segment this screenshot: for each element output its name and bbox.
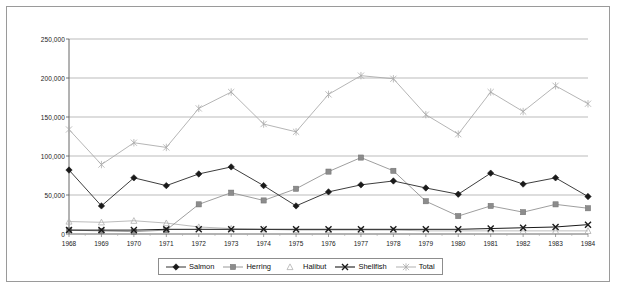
- x-axis-tick-label: 1971: [159, 240, 173, 247]
- legend-item-shellfish[interactable]: Shellfish: [335, 262, 386, 272]
- data-point-total-1975: [293, 128, 299, 135]
- x-axis-tick-label: 1973: [224, 240, 238, 247]
- legend-marker-square-icon: [223, 262, 243, 272]
- x-axis-tick-label: 1979: [419, 240, 433, 247]
- legend-item-salmon[interactable]: Salmon: [166, 262, 214, 272]
- x-axis-tick-label: 1974: [256, 240, 270, 247]
- data-point-herring-1981: [488, 203, 493, 208]
- x-axis-tick-label: 1975: [289, 240, 303, 247]
- data-point-total-1980: [455, 130, 461, 137]
- x-axis-tick-label: 1980: [451, 240, 465, 247]
- data-point-herring-1983: [553, 202, 558, 207]
- data-point-salmon-1981: [487, 170, 493, 176]
- legend-marker-triangle-icon: [280, 262, 300, 272]
- x-axis-tick-label: 1982: [516, 240, 530, 247]
- legend-item-halibut[interactable]: Halibut: [280, 262, 326, 272]
- data-point-salmon-1973: [228, 164, 234, 170]
- data-point-total-1972: [196, 105, 202, 112]
- data-point-herring-1973: [229, 190, 234, 195]
- data-point-total-1982: [520, 108, 526, 115]
- legend-item-herring[interactable]: Herring: [223, 262, 271, 272]
- y-axis-tick-label: 150,000: [41, 114, 65, 121]
- data-point-salmon-1976: [325, 189, 331, 195]
- data-point-herring-1972: [196, 202, 201, 207]
- chart-svg: [69, 39, 588, 234]
- y-axis-tick-label: 250,000: [41, 36, 65, 43]
- data-point-salmon-1980: [455, 191, 461, 197]
- chart-legend: SalmonHerringHalibutShellfishTotal: [158, 258, 443, 275]
- legend-symbol: [173, 263, 179, 269]
- data-point-herring-1975: [293, 186, 298, 191]
- data-point-herring-1974: [261, 198, 266, 203]
- x-axis-label-group: 1968196919701971197219731974197519761977…: [69, 240, 588, 252]
- data-point-salmon-1972: [196, 171, 202, 177]
- data-point-salmon-1974: [260, 182, 266, 188]
- series-total: [66, 72, 591, 168]
- x-axis-tick-label: 1978: [386, 240, 400, 247]
- data-point-herring-1984: [585, 206, 590, 211]
- data-point-salmon-1971: [163, 182, 169, 188]
- data-point-herring-1976: [326, 169, 331, 174]
- y-axis-label-group: 250,000200,000150,000100,00050,0000: [13, 39, 65, 234]
- legend-item-total[interactable]: Total: [396, 262, 435, 272]
- y-axis-tick-label: 0: [61, 231, 65, 238]
- legend-label: Shellfish: [358, 262, 386, 271]
- data-point-salmon-1979: [423, 185, 429, 191]
- data-point-total-1974: [261, 120, 267, 127]
- x-axis-tick-label: 1984: [581, 240, 595, 247]
- data-point-salmon-1984: [585, 193, 591, 199]
- x-axis-tick-label: 1977: [354, 240, 368, 247]
- data-point-salmon-1982: [520, 181, 526, 187]
- legend-label: Halibut: [303, 262, 326, 271]
- x-axis-tick-label: 1983: [548, 240, 562, 247]
- plot-area: [69, 39, 588, 234]
- y-axis-tick-label: 200,000: [41, 75, 65, 82]
- data-point-salmon-1978: [390, 178, 396, 184]
- chart-frame: 250,000200,000150,000100,00050,0000 1968…: [6, 6, 610, 282]
- data-point-total-1973: [228, 88, 234, 95]
- data-point-total-1979: [423, 111, 429, 118]
- series-line-total: [69, 76, 588, 165]
- x-axis-tick-label: 1972: [192, 240, 206, 247]
- data-point-herring-1982: [521, 210, 526, 215]
- data-point-total-1969: [98, 161, 104, 168]
- x-axis-tick-label: 1970: [127, 240, 141, 247]
- data-point-herring-1980: [456, 213, 461, 218]
- x-axis-tick-label: 1976: [321, 240, 335, 247]
- legend-label: Salmon: [189, 262, 214, 271]
- data-point-salmon-1983: [552, 175, 558, 181]
- data-point-salmon-1977: [358, 182, 364, 188]
- x-axis-tick-label: 1981: [483, 240, 497, 247]
- x-axis-tick-label: 1968: [62, 240, 76, 247]
- y-axis-tick-label: 100,000: [41, 153, 65, 160]
- y-axis-tick-label: 50,000: [45, 192, 65, 199]
- data-point-herring-1977: [358, 155, 363, 160]
- legend-symbol: [231, 264, 236, 269]
- data-point-total-1968: [66, 126, 72, 133]
- legend-label: Total: [419, 262, 435, 271]
- data-point-total-1983: [552, 82, 558, 89]
- data-point-total-1981: [488, 88, 494, 95]
- legend-symbol: [287, 263, 293, 269]
- data-point-herring-1979: [423, 199, 428, 204]
- legend-marker-cross-icon: [335, 262, 355, 272]
- data-point-herring-1978: [391, 168, 396, 173]
- legend-label: Herring: [246, 262, 271, 271]
- x-axis-tick-label: 1969: [94, 240, 108, 247]
- legend-marker-diamond-icon: [166, 262, 186, 272]
- data-point-salmon-1975: [293, 203, 299, 209]
- data-point-total-1984: [585, 100, 591, 107]
- legend-marker-star-icon: [396, 262, 416, 272]
- data-point-total-1976: [325, 91, 331, 98]
